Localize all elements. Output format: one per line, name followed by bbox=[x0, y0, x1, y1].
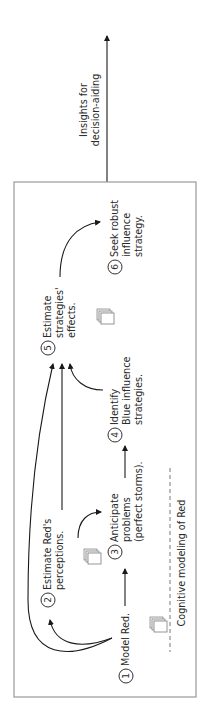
step-4-number: 4 bbox=[110, 432, 120, 438]
arrow-4-to-5 bbox=[70, 364, 103, 390]
output-label-line-1: Insights for bbox=[78, 83, 89, 137]
step-6-label-line-2: influence bbox=[121, 213, 132, 257]
step-5-label-line-3: effects. bbox=[66, 303, 77, 339]
documents-icon bbox=[84, 549, 101, 564]
frame-label-group: Cognitive modeling of Red bbox=[176, 500, 187, 627]
step-6-label-line-1: Seek robust bbox=[109, 200, 120, 257]
step-3-number: 3 bbox=[110, 549, 120, 555]
step-3: 3 Anticipate problems (perfect storms). bbox=[108, 461, 144, 559]
arrow-2-to-3 bbox=[78, 512, 101, 538]
step-3-label-line-3: (perfect storms). bbox=[133, 461, 144, 542]
step-5: 5 Estimate strategies' effects. bbox=[41, 287, 114, 355]
step-5-label-line-1: Estimate bbox=[42, 296, 53, 338]
step-5-number: 5 bbox=[43, 345, 53, 351]
output-label-line-2: decision-aiding bbox=[90, 74, 101, 146]
cognitive-modeling-frame bbox=[14, 182, 196, 697]
step-2-number: 2 bbox=[43, 597, 53, 603]
documents-icon bbox=[150, 617, 167, 632]
step-2-label-line-1: Estimate Red's bbox=[42, 519, 53, 590]
step-5-label-line-2: strategies' bbox=[54, 287, 65, 338]
step-6: 6 Seek robust influence strategy. bbox=[108, 200, 144, 274]
step-2: 2 Estimate Red's perceptions. bbox=[41, 519, 101, 607]
step-1: 1 Model Red. bbox=[119, 613, 167, 683]
step-4-label-line-1: Identify bbox=[109, 388, 120, 425]
diagram-canvas: Insights for decision-aiding Cognitive m… bbox=[0, 0, 211, 720]
arrow-1-to-5 bbox=[28, 364, 112, 651]
arrow-1-to-2 bbox=[50, 620, 112, 644]
step-1-label: Model Red. bbox=[120, 613, 131, 666]
step-1-number: 1 bbox=[121, 673, 131, 679]
step-4-label-line-2: Blue influence bbox=[121, 357, 132, 425]
arrow-5-to-6 bbox=[60, 222, 100, 277]
step-6-label-line-3: strategy. bbox=[133, 215, 144, 257]
step-2-label-line-2: perceptions. bbox=[54, 531, 65, 590]
step-3-label-line-2: problems bbox=[121, 497, 132, 542]
step-4-label-line-3: strategies. bbox=[133, 374, 144, 425]
step-4: 4 Identify Blue influence strategies. bbox=[108, 357, 144, 442]
step-3-label-line-1: Anticipate bbox=[109, 493, 120, 542]
frame-label: Cognitive modeling of Red bbox=[176, 500, 187, 627]
output-arrow-label: Insights for decision-aiding bbox=[78, 74, 101, 146]
documents-icon bbox=[97, 309, 114, 324]
step-6-number: 6 bbox=[110, 264, 120, 270]
